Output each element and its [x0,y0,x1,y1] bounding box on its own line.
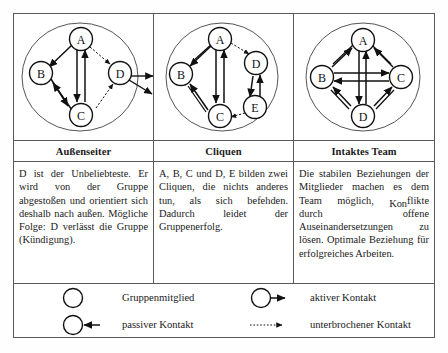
legend-row-1: Gruppenmitglied [14,284,434,311]
edge-c-d [376,90,394,109]
panel-aussenseiter: A B C D [14,14,154,283]
legend-label-passiver-kontakt: passiver Kontakt [122,319,194,330]
legend: Gruppenmitglied [14,283,434,337]
figure-frame: A B C D [13,13,435,338]
legend-item-gruppenmitglied: Gruppenmitglied [14,285,214,311]
node-b: B [170,63,193,86]
edge-a-d-dotted [90,47,110,64]
legend-label-gruppenmitglied: Gruppenmitglied [122,292,194,303]
panel-text-aussenseiter: D ist der Unbeliebteste. Er wird von der… [14,162,153,283]
panel-cliquen: A B C D [154,14,294,283]
edge-c-a [374,48,393,67]
svg-text:D: D [116,67,125,81]
svg-text:B: B [318,71,326,85]
edge-e-c-dotted [231,113,245,117]
edge-c-b-up [53,83,72,110]
panel-caption-intaktes-team: Intaktes Team [294,141,434,162]
svg-text:C: C [77,109,85,123]
node-d: D [352,105,375,128]
circle-arrow-in-icon [60,312,122,338]
edge-a-b [333,45,353,64]
edge-b-a [332,48,352,67]
edge-d-b [333,87,351,106]
edge-a-d-dotted [231,43,249,54]
panels-row: A B C D [14,14,434,283]
sociogram-aussenseiter: A B C D [14,14,153,141]
svg-text:A: A [77,33,86,47]
svg-text:B: B [37,67,45,81]
panel-intaktes-team: A B C D [294,14,434,283]
legend-label-unterbrochener-kontakt: unterbrochener Kontakt [310,319,411,330]
node-e: E [244,96,267,119]
panel-text-cliquen: A, B, C und D, E bilden zwei Cliquen, di… [154,162,293,283]
legend-item-passiver-kontakt: passiver Kontakt [14,312,214,338]
edge-b-d [331,90,349,109]
svg-text:A: A [216,33,225,47]
edge-b-a-up [192,43,213,62]
node-b: B [311,66,334,89]
edge-a-b-down [190,46,211,66]
circle-arrow-right-icon [248,285,310,311]
svg-text:D: D [359,110,368,124]
node-a: A [70,28,93,51]
node-c: C [209,105,232,128]
circle-icon [60,285,122,311]
node-d: D [109,62,132,85]
panel-caption-aussenseiter: Außenseiter [14,141,153,162]
panel-text-kon-fragment: Kon [389,197,407,210]
legend-item-unterbrochener-kontakt: unterbrochener Kontakt [214,312,434,338]
node-a: A [352,29,375,52]
legend-label-aktiver-kontakt: aktiver Kontakt [310,292,376,303]
legend-item-aktiver-kontakt: aktiver Kontakt [214,285,434,311]
sociogram-intaktes-team: A B C D [294,14,434,141]
figure-root: A B C D [0,0,448,353]
edge-a-b [49,45,72,67]
edge-b-c-down [188,86,206,112]
svg-text:C: C [397,71,405,85]
node-c: C [390,66,413,89]
dotted-arrow-icon [248,312,310,338]
node-a: A [209,28,232,51]
edge-c-b-up [190,84,208,110]
legend-row-2: passiver Kontakt unterbroc [14,311,434,338]
sociogram-cliquen: A B C D [154,14,293,141]
svg-text:C: C [216,110,224,124]
edge-c-d-dotted [96,84,113,108]
edge-d-outside-diagonal [129,80,152,94]
svg-text:B: B [177,68,185,82]
node-b: B [30,62,53,85]
svg-text:D: D [252,57,261,71]
panel-caption-cliquen: Cliquen [154,141,293,162]
edge-a-c [372,45,391,64]
edge-d-c [374,87,392,106]
node-d: D [245,52,268,75]
svg-text:E: E [251,101,258,115]
node-c: C [70,104,93,127]
panel-text-intaktes-team: Die stabilen Beziehungen der Mitglieder … [294,162,434,283]
svg-text:A: A [359,34,368,48]
edge-d-e-down [250,76,253,97]
